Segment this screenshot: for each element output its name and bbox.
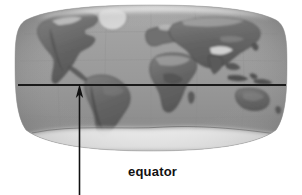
equator-line [18, 84, 286, 86]
world-map-svg [14, 4, 288, 154]
scan-vignette [14, 4, 288, 154]
world-map-figure: equator [0, 0, 302, 195]
world-map-image [14, 4, 288, 154]
equator-pointer-arrow [70, 82, 90, 195]
arrow-svg [70, 82, 90, 195]
map-body [14, 4, 288, 154]
equator-label: equator [128, 164, 177, 180]
